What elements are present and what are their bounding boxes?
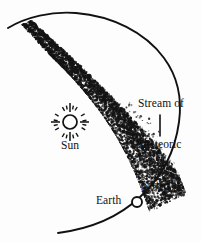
sun-icon — [51, 103, 89, 141]
stream-label-line2: meteoric — [124, 138, 198, 152]
stream-label-line1: Stream of — [124, 97, 198, 111]
meteor-stream-diagram: Stream of meteoric particles Sun Earth — [0, 0, 201, 243]
stream-label: Stream of meteoric particles — [124, 70, 198, 219]
stream-label-line3: particles — [124, 179, 198, 193]
earth-label: Earth — [96, 194, 121, 208]
sun-label: Sun — [53, 139, 87, 153]
